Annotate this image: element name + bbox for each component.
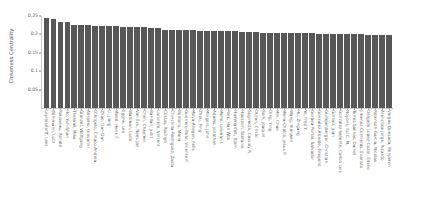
y-axis-tick-label: 0.2 [31,32,38,37]
x-axis-tick-label: Zhou, Ping [198,110,202,132]
x-axis-tick-label: Delgado Lopez-Cozar, Emilio [366,110,370,170]
x-axis-tick-label: Adams, Jonathan [212,110,216,145]
bar [190,30,196,108]
x-axis-tick: Duran, Cristo [253,110,260,206]
bar [78,25,84,108]
x-axis-tick: Li, Jiang [106,110,113,206]
x-axis-tick-label: Hammarfelt, Bjorn [233,110,237,149]
x-axis-tick-label: Ye, Fred Y. [303,110,307,131]
x-axis-tick: Ding, Ying [267,110,274,206]
bar [51,19,57,108]
x-axis-tick: Moed, Henk F. [113,110,120,206]
x-axis-tick: Gonzalez-Alcaide, Gregorio [315,110,322,206]
x-axis-tick-label: Gorbea-Portal, Salvador [310,110,314,160]
x-axis-tick: Ye, Fred Y. [301,110,308,206]
plot-area [43,16,392,108]
x-axis-tick-label: Guerrero-Bote, Vicente P. [184,110,188,163]
x-axis-tick: Moya-Anegon, Felix [190,110,197,206]
x-axis-tick: Costas, Rodrigo [162,110,169,206]
bar [65,22,71,108]
bar [176,30,182,108]
bar [58,22,64,108]
x-axis-tick-label: Abramo, Giovanni [86,110,90,148]
x-axis-tick: Zhao, Dan-Dan [99,110,106,206]
x-axis-tick-label: Moya-Anegon, Felix [191,110,195,151]
x-axis-tick: Larivière, Vincent [155,110,162,206]
x-axis-tick-label: Chinchilla-Rodriguez, Zaida [170,110,174,167]
x-axis-tick-label: Chen, Chaomei [142,110,146,142]
y-axis-tick-label: 0.05 [28,87,38,92]
x-axis-tick-label: Gonzalez-Valiente, Carlos Luis [338,110,342,173]
bar [148,28,154,108]
x-axis-tick-label: Larivière, Vincent [156,110,160,147]
x-axis-tick-label: Bordons, Maria [177,110,181,141]
x-axis-tick: Meho, Lokman I. [218,110,225,206]
x-axis-tick: Mingers, John [204,110,211,206]
x-axis-tick-labels: Leydesdorff, LoetBornmann, LutzRousseau,… [43,110,392,206]
x-axis-tick: Chinchilla-Rodriguez, Zaida [169,110,176,206]
bar [211,31,217,108]
y-axis-tick-label: 0.25 [28,14,38,19]
bar [337,34,343,108]
bar [281,33,287,108]
bar-series [43,16,392,108]
x-axis-tick-label: Meho, Lokman I. [219,110,223,145]
x-axis-tick: Ho, Yuh-Shan [64,110,71,206]
bar [120,27,126,108]
closeness-centrality-bar-chart: Closeness Centrality 0.050.10.150.20.25 … [0,0,441,208]
x-axis-tick: Robinson-Garcia, Nicolas [371,110,378,206]
bar [253,32,259,108]
bar [386,35,392,108]
x-axis-tick: Zhou, Ping [197,110,204,206]
bar [218,31,224,108]
x-axis-tick: Rousseau, Ronald [57,110,64,206]
y-axis-line [41,16,42,108]
bar [155,28,161,108]
x-axis-tick-label: Bar-Ilan, Judit [149,110,153,138]
x-axis-tick-label: Thelwall, Mike [72,110,76,140]
bar [330,34,336,108]
bar [288,33,294,108]
x-axis-tick-label: Leydesdorff, Loet [44,110,48,146]
x-axis-tick-label: D'Angelo, Ciriaco Andrea [93,110,97,162]
bar [316,34,322,108]
x-axis-tick: Guerrero-Bote, Vicente P. [183,110,190,206]
bar [197,31,203,109]
x-axis-tick-label: Li, Jiang [107,110,111,126]
x-axis-tick: Gorraiz, Juan [329,110,336,206]
x-axis-tick: Wang, Xianwen [287,110,294,206]
bar [379,35,385,108]
bar [344,34,350,108]
x-axis-tick-label: Duran, Cristo [254,110,258,138]
bar [351,34,357,108]
x-axis-tick: Vargas-Quesada, Benjamin [385,110,392,206]
x-axis-tick: Jimenez-Contreras, Evaristo [357,110,364,206]
x-axis-tick: Bar-Ilan, Judit [148,110,155,206]
x-axis-tick-label: Gumpenberger, Christian [324,110,328,163]
x-axis-tick: Arencibia-Jorge, Ricardo [378,110,385,206]
x-axis-tick: Adams, Jonathan [211,110,218,206]
x-axis-tick-label: Van Eck, Nees Jan [135,110,139,147]
x-axis-tick-label: Min, Chao [275,110,279,131]
x-axis-tick: D'Angelo, Ciriaco Andrea [92,110,99,206]
bar [99,26,105,108]
x-axis-tick-label: Noyons, Ed C. M. [345,110,349,145]
bar [44,18,50,108]
x-axis-tick-label: Egghe, Leo [121,110,125,133]
x-axis-tick: Abramo, Giovanni [85,110,92,206]
x-axis-tick-label: Park, Han Woo [226,110,230,140]
x-axis-tick-label: Costas, Rodrigo [163,110,167,143]
x-axis-tick: Gonzalez-Valiente, Carlos Luis [336,110,343,206]
x-axis-tick-label: Arencibia-Jorge, Ricardo [380,110,384,160]
x-axis-tick: Bordons, Maria [176,110,183,206]
x-axis-tick: Delgado Lopez-Cozar, Emilio [364,110,371,206]
y-axis-tick-labels: 0.050.10.150.20.25 [0,16,41,108]
x-axis-tick: Waltman, Ludo [127,110,134,206]
bar [85,25,91,108]
x-axis-tick: Torres-Salinas, Daniel [350,110,357,206]
x-axis-tick-label: Mingers, John [205,110,209,138]
bar [127,27,133,108]
x-axis-tick: Mena-Chalco, Jesus P. [280,110,287,206]
x-axis-tick: Sugimoto, Cassidy R. [246,110,253,206]
x-axis-tick-label: Hu, Zhigang [296,110,300,136]
